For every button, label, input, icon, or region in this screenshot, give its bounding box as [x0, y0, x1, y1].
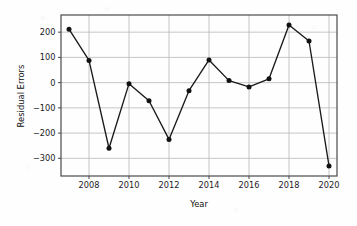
x-tick-label: 2012 [159, 180, 180, 190]
y-axis-tick-labels: 2001000−100−200−300 [33, 27, 56, 163]
x-tick-label: 2008 [79, 180, 100, 190]
data-point [167, 137, 172, 142]
chart-figure: 2001000−100−200−300 20082010201220142016… [0, 0, 357, 226]
x-axis-tick-labels: 2008201020122014201620182020 [79, 180, 340, 190]
data-point [267, 76, 272, 81]
x-tick-label: 2020 [319, 180, 340, 190]
residual-errors-line-chart: 2001000−100−200−300 20082010201220142016… [0, 0, 357, 226]
data-point [207, 57, 212, 62]
y-tick-label: −100 [33, 103, 56, 113]
x-tick-label: 2016 [239, 180, 260, 190]
data-point [67, 27, 72, 32]
data-point [307, 38, 312, 43]
x-tick-label: 2010 [119, 180, 140, 190]
data-point [287, 23, 292, 28]
data-point [107, 146, 112, 151]
x-axis-title: Year [189, 199, 208, 209]
y-tick-label: 200 [40, 27, 56, 37]
y-tick-label: 100 [40, 52, 56, 62]
data-point [87, 58, 92, 63]
y-axis-title: Residual Errors [16, 65, 26, 128]
y-tick-label: −200 [33, 128, 56, 138]
data-point [147, 98, 152, 103]
data-point [247, 84, 252, 89]
data-point [227, 78, 232, 83]
y-tick-label: 0 [50, 78, 55, 88]
y-tick-label: −300 [33, 153, 56, 163]
x-tick-label: 2018 [279, 180, 300, 190]
data-point [327, 163, 332, 168]
x-tick-label: 2014 [199, 180, 220, 190]
data-point [127, 81, 132, 86]
data-point [187, 88, 192, 93]
plot-background [61, 15, 337, 176]
